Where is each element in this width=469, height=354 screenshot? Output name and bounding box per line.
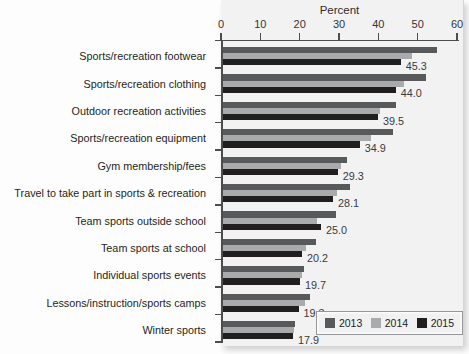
category-label: Team sports outside school (0, 204, 213, 231)
bar-group: 34.9 (223, 122, 463, 149)
category-label: Individual sports events (0, 259, 213, 286)
bar-2015 (223, 306, 299, 312)
y-tick-mark (215, 286, 222, 287)
bar-2015 (223, 333, 293, 339)
y-tick-mark (215, 232, 222, 233)
chart-canvas: Percent 0102030405060 Sports/recreation … (0, 0, 469, 354)
legend-label-2013: 2013 (339, 317, 362, 329)
bar-2015 (223, 278, 300, 284)
category-label: Lessons/instruction/sports camps (0, 287, 213, 314)
x-tick-label: 30 (333, 18, 345, 30)
y-tick-mark (215, 314, 222, 315)
bar-2015 (223, 196, 334, 202)
legend: 2013 2014 2015 (316, 311, 463, 335)
bar-2015 (223, 251, 302, 257)
legend-item-2015: 2015 (417, 317, 454, 329)
bar-2015 (223, 169, 338, 175)
category-label: Winter sports (0, 314, 213, 341)
legend-swatch-2013 (325, 318, 335, 328)
legend-item-2013: 2013 (325, 317, 362, 329)
legend-item-2014: 2014 (371, 317, 408, 329)
legend-label-2014: 2014 (385, 317, 408, 329)
bar-group: 44.0 (223, 67, 463, 94)
category-label: Sports/recreation equipment (0, 122, 213, 149)
bar-group: 45.3 (223, 40, 463, 67)
bar-group: 39.5 (223, 95, 463, 122)
category-label: Sports/recreation clothing (0, 67, 213, 94)
y-tick-mark (215, 40, 222, 41)
bar-group: 29.3 (223, 150, 463, 177)
bar-2015 (223, 141, 360, 147)
x-axis-title: Percent (221, 4, 458, 16)
value-label: 17.9 (298, 334, 319, 346)
bar-2015 (223, 224, 321, 230)
x-tick-label: 10 (254, 18, 266, 30)
y-tick-mark (215, 149, 222, 150)
legend-swatch-2015 (417, 318, 427, 328)
category-label: Outdoor recreation activities (0, 95, 213, 122)
category-label: Gym membership/fees (0, 150, 213, 177)
category-label: Sports/recreation footwear (0, 40, 213, 67)
x-tick-label: 50 (412, 18, 424, 30)
y-tick-mark (215, 122, 222, 123)
bar-group: 25.0 (223, 204, 463, 231)
legend-label-2015: 2015 (431, 317, 454, 329)
x-tick-label: 20 (294, 18, 306, 30)
y-tick-mark (215, 95, 222, 96)
y-tick-mark (215, 341, 222, 342)
bar-group: 19.3 (223, 287, 463, 314)
y-tick-mark (215, 67, 222, 68)
bar-group: 20.2 (223, 232, 463, 259)
bar-2015 (223, 114, 378, 120)
bar-2015 (223, 59, 401, 65)
x-tick-label: 0 (218, 18, 224, 30)
y-tick-mark (215, 259, 222, 260)
bar-groups: 45.344.039.534.929.328.125.020.219.719.3… (223, 40, 463, 342)
x-tick-label: 40 (372, 18, 384, 30)
bar-group: 28.1 (223, 177, 463, 204)
y-tick-mark (215, 177, 222, 178)
category-label: Team sports at school (0, 232, 213, 259)
legend-swatch-2014 (371, 318, 381, 328)
x-tick-label: 60 (451, 18, 463, 30)
category-labels: Sports/recreation footwearSports/recreat… (0, 40, 213, 341)
bar-2015 (223, 87, 396, 93)
category-label: Travel to take part in sports & recreati… (0, 177, 213, 204)
bar-group: 19.7 (223, 259, 463, 286)
y-tick-mark (215, 204, 222, 205)
